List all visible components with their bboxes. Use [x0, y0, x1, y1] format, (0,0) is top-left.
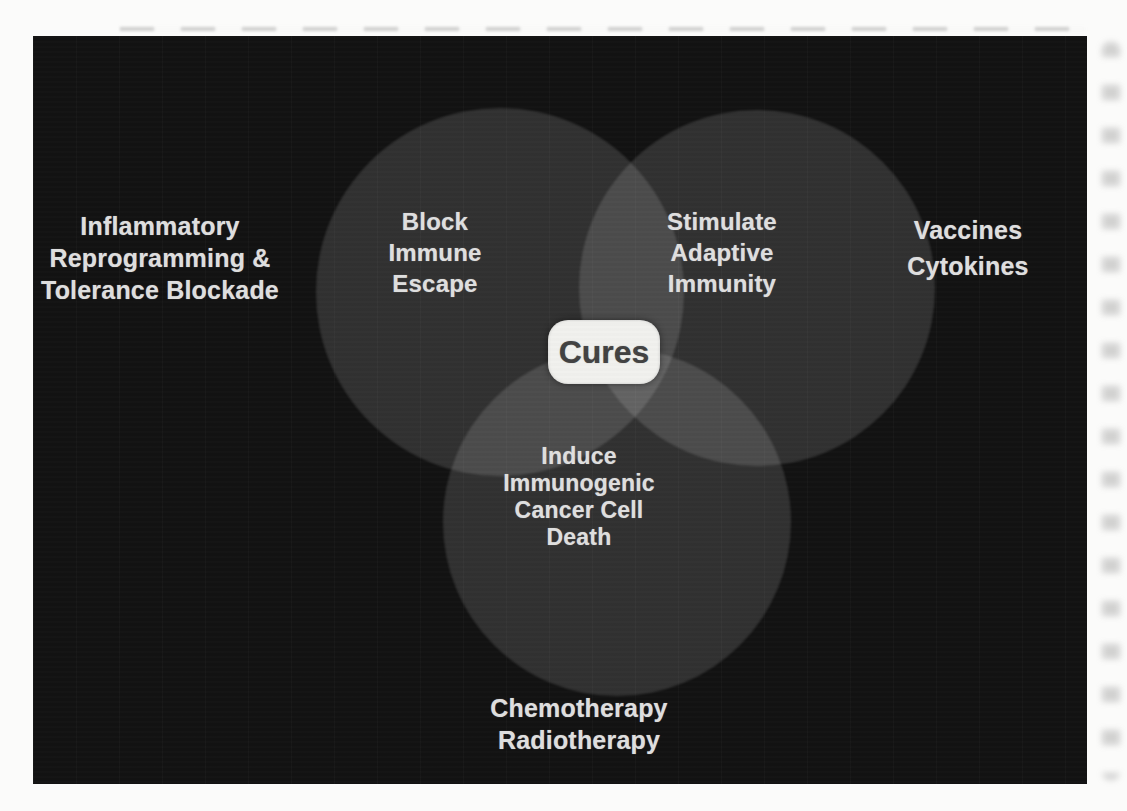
label-chemotherapy-radiotherapy: Chemotherapy Radiotherapy: [449, 692, 709, 756]
label-line: Immunity: [612, 268, 832, 299]
label-line: Induce: [449, 443, 709, 470]
label-line: Block: [325, 206, 545, 237]
label-line: Vaccines: [868, 212, 1068, 248]
label-line: Immune: [325, 237, 545, 268]
scan-artifact-streak: [120, 27, 1085, 31]
page-bleedthrough-text: [1102, 42, 1120, 780]
label-line: Reprogramming &: [28, 242, 292, 274]
label-line: Adaptive: [612, 237, 832, 268]
label-line: Death: [449, 524, 709, 551]
label-block-immune-escape: Block Immune Escape: [325, 206, 545, 299]
venn-diagram-panel: Cures: [33, 36, 1087, 784]
label-vaccines-cytokines: Vaccines Cytokines: [868, 212, 1068, 284]
label-line: Stimulate: [612, 206, 832, 237]
scanned-book-page: Cures Block Immune Escape Stimulate Adap…: [0, 0, 1127, 811]
label-line: Cancer Cell: [449, 497, 709, 524]
label-line: Inflammatory: [28, 210, 292, 242]
label-line: Immunogenic: [449, 470, 709, 497]
label-line: Radiotherapy: [449, 724, 709, 756]
cures-box: Cures: [548, 320, 660, 384]
label-inflammatory-reprogramming-tolerance-blockade: Inflammatory Reprogramming & Tolerance B…: [28, 210, 292, 306]
cures-label: Cures: [559, 334, 650, 371]
label-stimulate-adaptive-immunity: Stimulate Adaptive Immunity: [612, 206, 832, 299]
label-line: Cytokines: [868, 248, 1068, 284]
label-induce-immunogenic-cancer-cell-death: Induce Immunogenic Cancer Cell Death: [449, 443, 709, 551]
label-line: Tolerance Blockade: [28, 274, 292, 306]
label-line: Chemotherapy: [449, 692, 709, 724]
label-line: Escape: [325, 268, 545, 299]
